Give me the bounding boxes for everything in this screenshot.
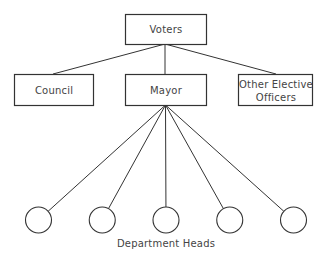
other-elective-officers-label-line1: Other Elective [239,79,313,90]
node-other-elective-officers: Other Elective Officers [239,75,313,106]
department-head-node-4 [217,207,243,233]
mayor-label: Mayor [150,85,183,96]
edge-voters-other [165,44,276,74]
edge-mayor-department-head-1 [48,105,165,211]
department-head-node-2 [89,207,115,233]
mayor-to-department-edges [48,105,284,211]
edge-mayor-department-head-5 [166,105,284,211]
node-voters: Voters [126,15,207,45]
department-heads-group [26,207,307,233]
edge-voters-council [53,44,165,74]
node-council: Council [15,75,94,106]
department-head-node-3 [153,207,179,233]
council-label: Council [35,85,73,96]
other-elective-officers-label-line2: Officers [256,92,296,103]
department-heads-label: Department Heads [117,238,215,249]
node-mayor: Mayor [126,75,207,106]
edge-mayor-department-head-4 [166,105,224,209]
org-chart-diagram: Voters Council Mayor Other Elective Offi… [0,0,328,261]
department-head-node-1 [26,207,52,233]
edge-mayor-department-head-2 [109,105,166,209]
voters-label: Voters [150,24,183,35]
department-head-node-5 [281,207,307,233]
